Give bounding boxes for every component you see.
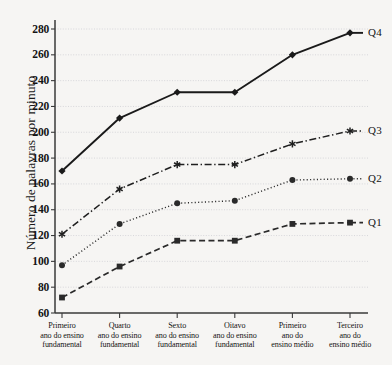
y-axis-tick-label: 160: [15, 177, 49, 189]
y-axis-tick-label: 120: [15, 229, 49, 241]
y-axis-tick-label: 100: [15, 255, 49, 267]
series-label-q2: Q2: [368, 172, 382, 184]
series-line-q2: [62, 179, 350, 265]
series-label-q3: Q3: [368, 124, 382, 136]
data-point-marker: [289, 177, 295, 183]
y-axis-tick-label: 180: [15, 152, 49, 164]
series-label-q1: Q1: [368, 216, 382, 228]
series-label-q4: Q4: [368, 26, 382, 38]
gridlines: [55, 29, 368, 287]
series-line-q3: [62, 131, 350, 234]
series-line-q4: [62, 33, 350, 171]
chart-container: Número de palavras por minuto 6080100120…: [0, 0, 392, 365]
chart-plot-area: [0, 0, 392, 365]
y-axis-tick-label: 240: [15, 74, 49, 86]
y-axis-tick-label: 200: [15, 126, 49, 138]
data-point-marker: [232, 198, 238, 204]
x-axis-tick-label: Terceiroano doensino médio: [312, 321, 388, 350]
data-series-group: [58, 29, 363, 300]
data-point-marker: [117, 221, 123, 227]
data-point-marker: [232, 238, 238, 244]
data-point-marker: [59, 295, 65, 301]
data-point-marker: [174, 238, 180, 244]
series-line-q1: [62, 223, 350, 298]
data-point-marker: [117, 264, 123, 270]
data-point-marker: [174, 200, 180, 206]
data-point-marker: [289, 140, 295, 147]
y-axis-tick-label: 60: [15, 307, 49, 319]
y-axis-tick-label: 220: [15, 100, 49, 112]
y-axis-tick-label: 260: [15, 48, 49, 60]
chart-axes: [51, 20, 368, 313]
y-axis-tick-label: 280: [15, 23, 49, 35]
data-point-marker: [290, 221, 296, 227]
y-axis-tick-label: 80: [15, 281, 49, 293]
data-point-marker: [174, 89, 181, 96]
figure-caption: [0, 352, 392, 365]
data-point-marker: [59, 262, 65, 268]
y-axis-tick-label: 140: [15, 203, 49, 215]
